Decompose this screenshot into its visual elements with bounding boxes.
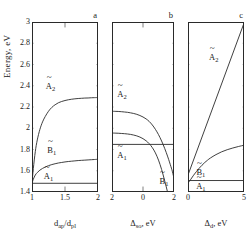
curve-B1tilde	[32, 159, 98, 183]
panel-b-letter: b	[169, 10, 173, 20]
curve-label-B1: B1	[159, 176, 168, 186]
curve-label-A2: A2	[209, 52, 218, 62]
curve-label-B1: B1	[47, 145, 56, 155]
panel-a-plot-area	[32, 22, 98, 192]
x-tick-c-0: 0	[186, 194, 190, 202]
curve-label-A1: A1	[44, 171, 53, 181]
y-tick-2: 2	[26, 124, 30, 132]
panel-b-x-axis-label: Δso, eV	[112, 218, 174, 228]
panel-a: a dap/dpl 1.41.61.822.22.42.62.8311.52A2…	[32, 22, 98, 192]
curve-label-A2: A2	[46, 81, 55, 91]
x-label-text-a: dap/dpl	[54, 218, 76, 228]
y-tick-2.6: 2.6	[20, 61, 30, 69]
x-label-text-c: Δd, eV	[205, 218, 228, 228]
curve-label-A1: A1	[117, 150, 126, 160]
x-tick-b-2: 2	[172, 194, 176, 202]
y-tick-1.6: 1.6	[20, 167, 30, 175]
x-tick-a-0: 1	[30, 194, 34, 202]
panel-b-plot-area	[112, 22, 174, 192]
y-tick-3: 3	[26, 18, 30, 26]
figure-root: Energy, eV a dap/dpl 1.41.61.822.22.42.6…	[0, 0, 248, 229]
curve-A2tilde	[32, 98, 98, 184]
panel-c: c Δd, eV 05A2B1A1	[188, 22, 244, 192]
curve-label-A1: A1	[196, 181, 205, 191]
x-tick-b-1: 0	[141, 194, 145, 202]
panel-a-letter: a	[93, 10, 97, 20]
y-tick-2.2: 2.2	[20, 103, 30, 111]
x-tick-a-1: 1.5	[60, 194, 70, 202]
y-axis-label: Energy, eV	[2, 8, 12, 78]
curve-label-A2: A2	[117, 89, 126, 99]
y-tick-1.8: 1.8	[20, 146, 30, 154]
x-tick-b-0: 2	[110, 194, 114, 202]
x-label-text-b: Δso, eV	[130, 218, 155, 228]
y-tick-2.4: 2.4	[20, 82, 30, 90]
panel-a-x-axis-label: dap/dpl	[32, 218, 98, 228]
y-tick-1.4: 1.4	[20, 188, 30, 196]
y-tick-2.8: 2.8	[20, 39, 30, 47]
panel-c-x-axis-label: Δd, eV	[188, 218, 244, 228]
panel-b: b Δso, eV 202A2A1B1	[112, 22, 174, 192]
panel-c-letter: c	[239, 10, 243, 20]
x-tick-a-2: 2	[96, 194, 100, 202]
x-tick-c-1: 5	[242, 194, 246, 202]
curve-A2tilde	[188, 23, 244, 175]
